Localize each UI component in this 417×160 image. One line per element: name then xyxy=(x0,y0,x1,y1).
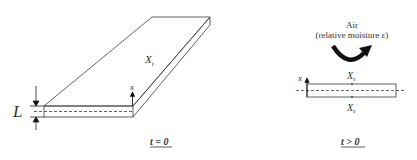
x-axis-label-right: x xyxy=(297,73,302,83)
slab-cross-section xyxy=(296,84,406,97)
top-surface-label: Xs xyxy=(346,70,356,82)
environment-moisture-label: (relative moisture ε) xyxy=(316,30,389,40)
slab-side-face xyxy=(133,17,210,117)
moisture-exchange-arrow-icon xyxy=(333,45,372,60)
bottom-surface-label: Xs xyxy=(346,102,356,114)
thickness-dimension xyxy=(30,86,44,130)
bottom-surface-point xyxy=(351,96,353,98)
dim-arrow-up-icon xyxy=(33,117,39,122)
top-surface-point xyxy=(351,83,353,85)
environment-label: Air xyxy=(346,20,358,30)
slab-3d xyxy=(34,17,210,117)
initial-moisture-label: Xi xyxy=(144,53,154,68)
diagram-canvas: L x Xi t = 0 Air (relative moisture ε) x… xyxy=(0,0,417,160)
time-label-initial: t = 0 xyxy=(150,136,168,147)
slab-top-face xyxy=(44,17,210,106)
thickness-label: L xyxy=(12,102,22,121)
dim-arrow-down-icon xyxy=(33,101,39,106)
x-axis-label: x xyxy=(129,82,134,92)
time-label-later: t > 0 xyxy=(341,136,359,147)
